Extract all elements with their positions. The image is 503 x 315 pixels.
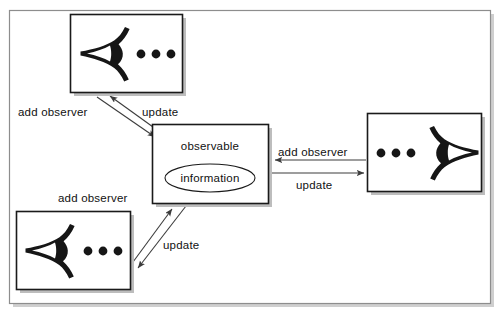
edge-label-add-observer-right: add observer	[278, 146, 348, 158]
diagram-canvas: observable information add observer upda…	[0, 0, 503, 315]
edge-label-update-bottom: update	[163, 239, 199, 251]
observer-dots	[137, 50, 176, 59]
observer-bottom-left[interactable]	[17, 212, 135, 294]
edge-label-add-observer-bottom: add observer	[58, 192, 128, 204]
edge-label-update-top: update	[142, 106, 178, 118]
edge-label-update-right: update	[296, 179, 332, 191]
observer-top-left[interactable]	[71, 15, 187, 97]
edge-label-add-observer-top: add observer	[18, 106, 88, 118]
observer-dots	[84, 247, 123, 256]
observable-title: observable	[181, 140, 239, 152]
observer-right[interactable]	[368, 114, 486, 196]
observer-dots	[377, 149, 416, 158]
observable-node[interactable]: observable information	[153, 125, 273, 208]
observer-pattern-figure: observable information add observer upda…	[0, 0, 503, 315]
information-label: information	[180, 172, 239, 184]
